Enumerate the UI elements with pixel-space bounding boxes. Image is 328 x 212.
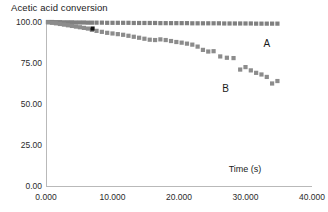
data-point-B [58,22,62,26]
data-point-B [148,38,152,42]
data-point-A [201,21,205,25]
data-point-B [70,24,74,28]
data-point-B [180,41,184,45]
data-point-B [137,36,141,40]
x-axis-title: Time (s) [229,164,262,174]
data-point-B [254,71,258,75]
data-point-B [82,26,86,30]
x-tick-label: 20.000 [166,192,192,202]
data-point-A [78,20,82,24]
y-tick-label: 0.00 [25,181,42,191]
data-point-B [116,32,120,36]
data-point-A [174,21,178,25]
data-point-B [265,75,269,79]
data-point-B [225,56,229,60]
data-point-A [243,21,247,25]
data-point-A [164,21,168,25]
y-tick-label: 50.00 [21,99,43,109]
data-point-B [249,68,253,72]
x-axis-tick-labels: 0.00010.00020.00030.00040.000 [35,192,325,202]
y-tick-label: 25.00 [21,140,43,150]
data-point-A [105,21,109,25]
data-point-markers [46,20,280,86]
data-point-A [249,21,253,25]
data-point-A [86,21,90,25]
data-point-A [196,21,200,25]
x-tick-label: 10.000 [100,192,126,202]
data-point-A [217,21,221,25]
data-point-B [201,48,205,52]
data-point-B [66,23,70,27]
data-point-B [121,33,125,37]
data-point-B [231,56,235,60]
data-point-B [74,24,78,28]
data-point-B [110,31,114,35]
data-point-A [211,21,215,25]
data-point-A [90,21,94,25]
data-point-B [62,23,66,27]
data-point-B [50,21,54,25]
data-point-B [126,34,130,38]
data-point-A [126,21,130,25]
data-point-A [233,21,237,25]
data-point-A [227,21,231,25]
data-point-B [174,40,178,44]
data-point-A [180,21,184,25]
data-point-A [222,21,226,25]
data-point-A [190,21,194,25]
data-point-B [164,38,168,42]
data-point-A [169,21,173,25]
data-point-B [105,31,109,35]
series-label-B: B [222,83,229,94]
data-point-A [70,20,74,24]
data-point-A [74,20,78,24]
data-point-B [86,26,90,30]
data-point-A [121,21,125,25]
data-point-A [275,22,279,26]
data-point-B [218,54,222,58]
data-point-B [94,29,98,33]
data-point-B [196,45,200,49]
data-point-B [78,25,82,29]
data-point-B [158,37,162,41]
data-point-A [82,20,86,24]
data-point-A [254,22,258,26]
data-point-A [238,21,242,25]
data-point-B [211,49,215,53]
data-point-A [137,21,141,25]
data-point-A [132,21,136,25]
data-point-B [142,37,146,41]
x-tick-label: 40.000 [299,192,325,202]
data-point-A [259,22,263,26]
data-point-A [158,21,162,25]
chart-plot-area: 0.0025.0050.0075.00100.00 0.00010.00020.… [0,0,328,212]
data-point-B [190,43,194,47]
data-point-A [100,21,104,25]
x-tick-label: 0.000 [35,192,57,202]
data-point-B [243,65,247,69]
data-point-A [116,21,120,25]
data-point-B [270,81,274,85]
data-point-B [100,30,104,34]
chart-container: Acetic acid conversion 0.0025.0050.0075.… [0,0,328,212]
data-point-B [169,39,173,43]
data-point-B [206,49,210,53]
data-point-A [206,21,210,25]
y-tick-label: 75.00 [21,58,43,68]
y-axis-tick-labels: 0.0025.0050.0075.00100.00 [16,17,42,191]
data-point-B [275,79,279,83]
series-label-A: A [263,38,270,49]
data-point-A [148,21,152,25]
data-point-B [46,20,50,24]
data-point-highlight [90,26,94,30]
data-point-A [265,22,269,26]
y-tick-label: 100.00 [16,17,42,27]
data-point-A [185,21,189,25]
data-point-B [238,67,242,71]
data-point-A [110,21,114,25]
data-point-B [259,72,263,76]
data-point-A [270,22,274,26]
data-point-A [142,21,146,25]
data-point-B [185,42,189,46]
x-tick-label: 30.000 [233,192,259,202]
